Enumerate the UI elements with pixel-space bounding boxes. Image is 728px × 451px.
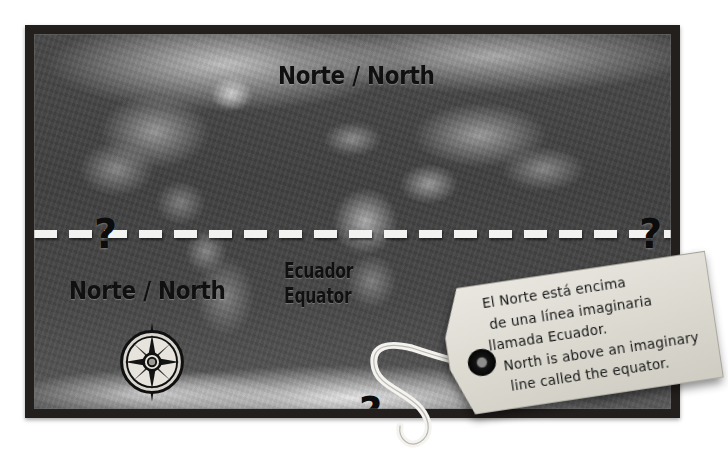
question-mark-right: ?	[639, 214, 662, 254]
map-label-equator-spanish: Ecuador	[284, 259, 353, 284]
map-label-equator: Ecuador Equator	[284, 259, 365, 309]
equator-dashed-line	[34, 230, 671, 238]
compass-rose-icon	[114, 322, 190, 402]
map-label-north-left: Norte / North	[69, 276, 226, 305]
question-mark-left: ?	[94, 214, 117, 254]
question-mark-bottom: ?	[359, 392, 382, 418]
map-label-equator-english: Equator	[284, 284, 353, 309]
map-label-north-top: Norte / North	[278, 61, 435, 90]
